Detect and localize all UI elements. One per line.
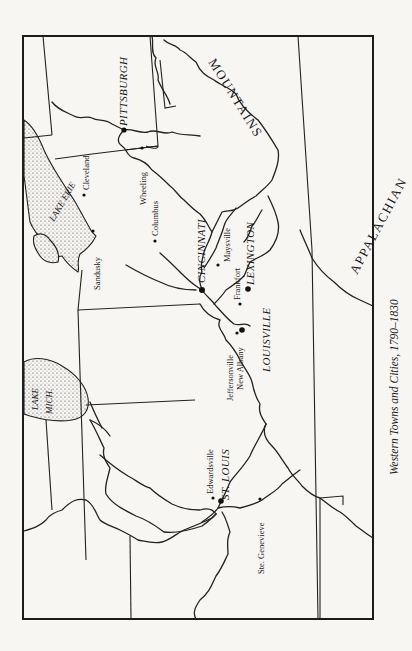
label-lake-michigan-2: MICH. — [44, 389, 54, 415]
label-frankfort: Frankfort — [232, 267, 242, 300]
label-maysville: Maysville — [222, 228, 232, 262]
new-albany-dot — [235, 331, 238, 334]
label-pittsburgh: PITTSBURGH — [117, 56, 129, 127]
map-labels: PITTSBURGH Cleveland Sandusky Wheeling C… — [30, 56, 410, 574]
ste-genevieve-dot — [258, 497, 261, 500]
book-page: PITTSBURGH Cleveland Sandusky Wheeling C… — [0, 0, 412, 651]
label-louisville: LOUISVILLE — [260, 307, 272, 373]
frankfort-dot — [238, 302, 241, 305]
pittsburgh-dot — [121, 127, 126, 132]
label-edwardsville: Edwardsville — [205, 449, 215, 494]
label-st-louis: ST. LOUIS — [219, 449, 231, 500]
label-appalachian: APPALACHIAN — [346, 175, 409, 277]
label-jeffersonville: Jeffersonville — [225, 355, 235, 401]
wheeling-dot — [140, 146, 143, 149]
label-lexington: LEXINGTON — [244, 221, 256, 286]
town-markers — [82, 127, 261, 503]
edwardsville-dot — [211, 496, 214, 499]
label-new-albany: New Albany — [235, 347, 245, 390]
label-cleveland: Cleveland — [81, 155, 91, 190]
columbus-dot — [153, 239, 156, 242]
label-lake-michigan-1: LAKE — [30, 387, 40, 411]
cincinnati-dot — [199, 287, 205, 293]
louisville-dot — [239, 327, 245, 333]
label-ste-genevieve: Ste. Genevieve — [256, 522, 266, 574]
label-wheeling: Wheeling — [138, 171, 148, 205]
map-caption: Western Towns and Cities, 1790–1830 — [388, 299, 401, 475]
rivers — [24, 36, 373, 619]
label-mountains: MOUNTAINS — [205, 56, 266, 141]
sandusky-dot — [91, 229, 94, 232]
lexington-dot — [245, 286, 251, 292]
cleveland-dot — [82, 193, 85, 196]
label-cincinnati: CINCINNATI — [195, 218, 207, 283]
label-columbus: Columbus — [150, 201, 160, 236]
western-towns-map: PITTSBURGH Cleveland Sandusky Wheeling C… — [0, 0, 412, 651]
label-sandusky: Sandusky — [92, 256, 102, 290]
maysville-dot — [216, 263, 219, 266]
